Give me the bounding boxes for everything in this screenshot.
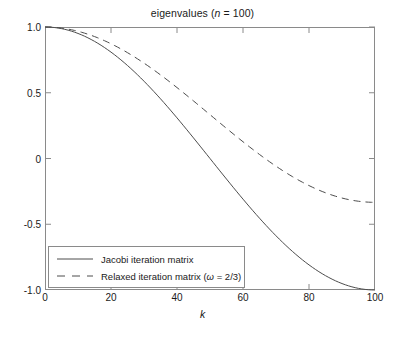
legend-label-jacobi: Jacobi iteration matrix	[101, 254, 193, 265]
legend-label-relaxed-suffix: = 2/3)	[214, 271, 241, 282]
legend-label-relaxed: Relaxed iteration matrix (ω = 2/3)	[101, 271, 241, 282]
legend-label-relaxed-prefix: Relaxed iteration matrix (	[101, 271, 207, 282]
legend-label-omega: ω	[207, 271, 214, 282]
legend: Jacobi iteration matrix Relaxed iteratio…	[48, 246, 245, 288]
legend-sample-dashed	[55, 270, 95, 282]
legend-sample-solid	[55, 253, 95, 265]
legend-item-relaxed: Relaxed iteration matrix (ω = 2/3)	[55, 268, 241, 284]
legend-item-jacobi: Jacobi iteration matrix	[55, 251, 193, 267]
series-relaxed-line	[45, 27, 375, 202]
chart-page: eigenvalues (n = 100) 1.0 0.5 0 -0.5 -1.…	[0, 0, 405, 337]
